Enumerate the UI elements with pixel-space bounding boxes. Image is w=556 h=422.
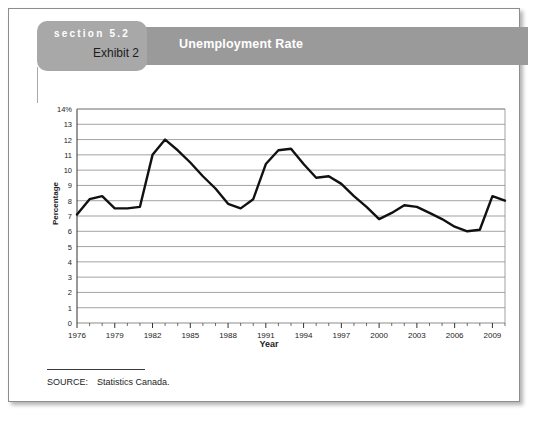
x-axis-ticks (77, 323, 505, 328)
svg-text:5: 5 (68, 243, 72, 252)
svg-text:4: 4 (68, 258, 72, 267)
exhibit-number-label: Exhibit 2 (45, 46, 139, 60)
y-axis-title: Percentage (51, 164, 60, 244)
chart-area: 01234567891011121314% 197619791982198519… (29, 91, 509, 359)
unemployment-line-chart: 01234567891011121314% 197619791982198519… (29, 91, 509, 341)
svg-text:13: 13 (64, 120, 72, 129)
exhibit-header: Unemployment Rate section 5.2 Exhibit 2 (9, 9, 521, 93)
svg-text:0: 0 (68, 319, 72, 328)
source-text-line: SOURCE:Statistics Canada. (47, 377, 347, 387)
svg-text:9: 9 (68, 181, 72, 190)
svg-text:14%: 14% (57, 105, 72, 114)
svg-text:8: 8 (68, 197, 72, 206)
x-axis-title: Year (29, 339, 509, 349)
section-tab: section 5.2 Exhibit 2 (37, 21, 147, 71)
svg-text:11: 11 (64, 151, 72, 160)
source-label: SOURCE: (47, 377, 88, 387)
svg-text:10: 10 (64, 166, 72, 175)
exhibit-page: Unemployment Rate section 5.2 Exhibit 2 … (8, 8, 520, 402)
svg-text:6: 6 (68, 227, 72, 236)
svg-text:12: 12 (64, 136, 72, 145)
svg-text:3: 3 (68, 273, 72, 282)
chart-gridlines (77, 109, 505, 323)
svg-text:1: 1 (68, 304, 72, 313)
svg-text:7: 7 (68, 212, 72, 221)
section-label: section 5.2 (45, 28, 139, 39)
source-rule (47, 369, 145, 370)
source-note: SOURCE:Statistics Canada. (47, 369, 347, 387)
svg-text:2: 2 (68, 288, 72, 297)
exhibit-title: Unemployment Rate (179, 37, 303, 51)
source-value: Statistics Canada. (97, 377, 170, 387)
